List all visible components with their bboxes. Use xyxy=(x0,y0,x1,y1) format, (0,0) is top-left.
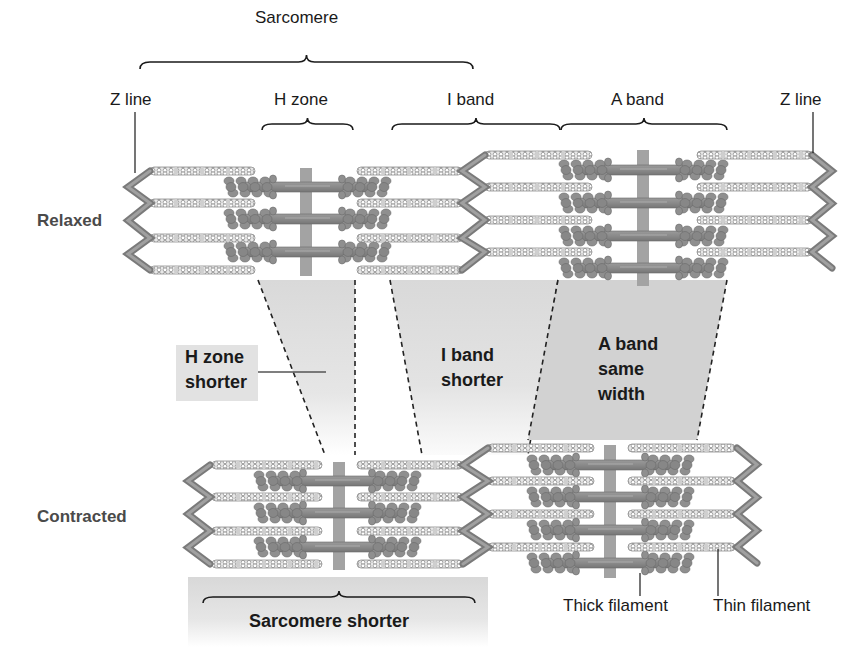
sarcomere-brace xyxy=(140,55,473,69)
relaxed-state-label: Relaxed xyxy=(37,212,102,229)
thin-filament xyxy=(150,266,255,275)
a-band-label: A band xyxy=(611,91,664,108)
thin-filament xyxy=(357,234,462,243)
sarcomere-shorter-label: Sarcomere shorter xyxy=(249,609,409,633)
h-zone-brace xyxy=(262,118,353,130)
thin-filament xyxy=(485,151,592,160)
thin-filament xyxy=(212,461,322,470)
thin-filament xyxy=(628,444,735,453)
z-line-label-left: Z line xyxy=(110,91,152,108)
thin-filament xyxy=(212,560,322,569)
thin-filament xyxy=(488,543,594,552)
h-zone-projection xyxy=(258,280,355,455)
i-band-shorter-line2: shorter xyxy=(441,368,503,392)
thin-filament-label: Thin filament xyxy=(713,597,810,614)
sarcomere-label: Sarcomere xyxy=(255,9,338,26)
thin-filament xyxy=(357,266,462,275)
thin-filament xyxy=(212,527,322,536)
thin-filament xyxy=(628,510,735,519)
thin-filament xyxy=(150,167,255,176)
thin-filament xyxy=(697,248,812,257)
thin-filament xyxy=(628,477,735,486)
thin-filament xyxy=(697,216,812,225)
thin-filament xyxy=(488,510,594,519)
thin-filament xyxy=(697,183,812,192)
thin-filament xyxy=(357,167,462,176)
thin-filament xyxy=(697,151,812,160)
thin-filament xyxy=(150,199,255,208)
thin-filament xyxy=(628,543,735,552)
thin-filament xyxy=(357,560,463,569)
i-band-label: I band xyxy=(447,91,494,108)
z-line-right-highlight xyxy=(737,448,757,563)
thin-filament xyxy=(357,493,463,502)
thin-filament xyxy=(488,444,594,453)
thin-filament xyxy=(485,248,592,257)
h-zone-shorter-line1: H zone xyxy=(185,345,244,369)
a-band-brace xyxy=(561,118,727,130)
thin-filament xyxy=(488,477,594,486)
a-band-same-line2: same xyxy=(598,357,644,381)
thin-filament xyxy=(150,234,255,243)
i-band-shorter-line1: I band xyxy=(441,343,494,367)
thin-filament xyxy=(357,461,463,470)
i-band-brace xyxy=(392,118,560,130)
h-zone-label: H zone xyxy=(274,91,328,108)
thick-filament-label: Thick filament xyxy=(563,597,668,614)
a-band-same-line1: A band xyxy=(598,332,658,356)
contracted-state-label: Contracted xyxy=(37,508,127,525)
thin-filament xyxy=(485,183,592,192)
thin-filament xyxy=(212,493,322,502)
z-line-right-highlight xyxy=(812,155,832,268)
thin-filament xyxy=(485,216,592,225)
thin-filament xyxy=(357,527,463,536)
z-line-label-right: Z line xyxy=(780,91,822,108)
thin-filament xyxy=(357,199,462,208)
h-zone-shorter-line2: shorter xyxy=(185,370,247,394)
sarcomere-diagram: Sarcomere Z line H zone I band A band Z … xyxy=(0,0,862,657)
a-band-same-line3: width xyxy=(598,382,645,406)
